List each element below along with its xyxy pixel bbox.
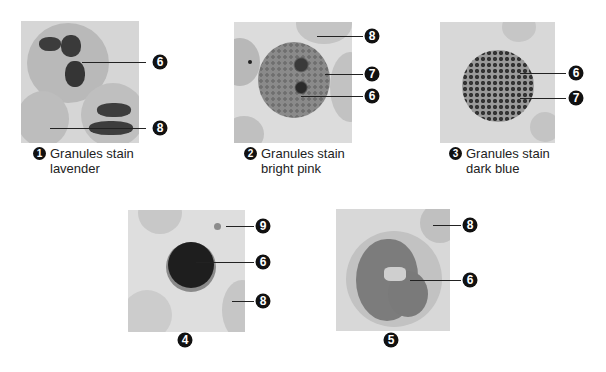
nucleus-lobe	[39, 37, 61, 51]
callout-label: 6	[463, 273, 478, 288]
callout-label: 6	[569, 66, 584, 81]
callout-line	[301, 96, 363, 97]
panel-caption: 3Granules stain dark blue	[449, 146, 550, 176]
callout-line	[520, 73, 566, 74]
nucleus-lobe	[61, 35, 81, 57]
panel-number-badge: 1	[33, 147, 46, 160]
callout-line	[196, 262, 254, 263]
panel-caption: 2Granules stain bright pink	[244, 146, 345, 176]
red-blood-cell	[128, 290, 172, 332]
caption-line: Granules stain	[261, 146, 345, 161]
caption-line: lavender	[33, 161, 134, 176]
red-blood-cell	[502, 22, 536, 42]
red-blood-cell	[222, 280, 245, 332]
callout-label: 8	[365, 29, 380, 44]
caption-line: Granules stain	[50, 146, 134, 161]
nucleus-notch	[384, 267, 406, 281]
callout-label: 7	[365, 67, 380, 82]
callout-label: 6	[153, 55, 168, 70]
red-blood-cell	[530, 112, 555, 142]
micrograph-panel-1	[21, 21, 139, 143]
red-blood-cell	[138, 210, 182, 234]
red-blood-cell	[420, 209, 450, 243]
red-blood-cell	[234, 116, 264, 143]
platelet	[214, 223, 221, 230]
panel-number-badge: 3	[449, 147, 462, 160]
cell-eosinophil	[258, 42, 330, 118]
callout-label: 9	[256, 219, 271, 234]
callout-label: 7	[569, 91, 584, 106]
panel-caption: 1Granules stain lavender	[33, 146, 134, 176]
panel-number-badge: 5	[384, 333, 399, 348]
callout-line	[433, 225, 461, 226]
panel-number-badge: 4	[178, 333, 193, 348]
callout-label: 6	[256, 255, 271, 270]
cell-basophil	[462, 50, 534, 122]
callout-line	[232, 301, 254, 302]
callout-label: 8	[463, 218, 478, 233]
dot	[248, 60, 252, 64]
red-blood-cell	[234, 38, 260, 86]
lymphocyte-nucleus	[168, 242, 214, 288]
callout-line	[226, 226, 254, 227]
callout-label: 8	[256, 294, 271, 309]
micrograph-panel-5	[336, 209, 450, 331]
callout-line	[410, 280, 461, 281]
panel-number-badge: 2	[244, 147, 257, 160]
caption-line: bright pink	[244, 161, 345, 176]
nucleus-lobe	[65, 61, 85, 87]
caption-line: dark blue	[449, 161, 550, 176]
callout-line	[520, 98, 566, 99]
callout-line	[325, 74, 363, 75]
red-blood-cell	[330, 52, 352, 122]
red-blood-cell	[21, 91, 69, 143]
callout-label: 8	[153, 121, 168, 136]
red-blood-cell	[296, 22, 352, 44]
callout-line	[82, 62, 146, 63]
micrograph-panel-3	[440, 22, 555, 143]
micrograph-panel-2	[234, 22, 352, 143]
nucleus-lobe	[97, 103, 131, 117]
callout-line	[317, 36, 363, 37]
caption-line: Granules stain	[466, 146, 550, 161]
callout-label: 6	[365, 89, 380, 104]
micrograph-panel-4	[128, 210, 245, 332]
callout-line	[50, 128, 146, 129]
